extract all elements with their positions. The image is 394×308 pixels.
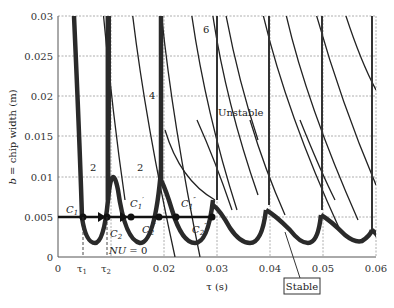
svg-text:0.03: 0.03	[31, 11, 53, 22]
svg-text:4: 4	[149, 90, 155, 101]
svg-text:C2: C2	[110, 228, 123, 241]
svg-text:0: 0	[55, 263, 61, 274]
stable-label-box: Stable	[284, 278, 320, 294]
x-axis-ticks: 0 τ1 τ2 0.02 0.03 0.04 0.05 0.06	[55, 263, 387, 276]
svg-text:C1: C1	[66, 204, 78, 217]
svg-text:0.02: 0.02	[153, 263, 175, 274]
svg-text:0.025: 0.025	[24, 51, 53, 62]
svg-text:Unstable: Unstable	[218, 107, 264, 118]
svg-text:0.005: 0.005	[24, 212, 53, 223]
nu-contours	[103, 10, 376, 257]
svg-text:C2′: C2′	[142, 222, 156, 237]
svg-text:0: 0	[47, 252, 53, 263]
svg-text:τ2: τ2	[101, 263, 111, 276]
svg-text:0.04: 0.04	[259, 263, 281, 274]
svg-text:C1″: C1″	[181, 196, 196, 211]
svg-text:C1′: C1′	[130, 196, 144, 211]
y-axis-ticks: 0 0.005 0.01 0.015 0.02 0.025 0.03	[24, 11, 53, 263]
stability-boundary	[74, 16, 380, 243]
svg-text:0.015: 0.015	[24, 131, 53, 142]
svg-text:0.03: 0.03	[206, 263, 228, 274]
svg-text:2: 2	[90, 162, 96, 173]
svg-text:NU = 0: NU = 0	[108, 245, 147, 256]
svg-text:0.06: 0.06	[365, 263, 387, 274]
stability-lobe-chart: 0 0.005 0.01 0.015 0.02 0.025 0.03 0 τ1 …	[0, 0, 394, 308]
svg-text:2: 2	[137, 162, 143, 173]
svg-text:0.05: 0.05	[312, 263, 334, 274]
y-axis-label: b = chip width (m)	[7, 89, 18, 184]
x-axis-label: τ (s)	[206, 281, 228, 292]
svg-text:Stable: Stable	[286, 281, 318, 292]
svg-text:0.01: 0.01	[31, 172, 53, 183]
svg-text:τ1: τ1	[77, 263, 87, 276]
svg-text:6: 6	[203, 24, 209, 35]
svg-text:0.02: 0.02	[31, 91, 53, 102]
